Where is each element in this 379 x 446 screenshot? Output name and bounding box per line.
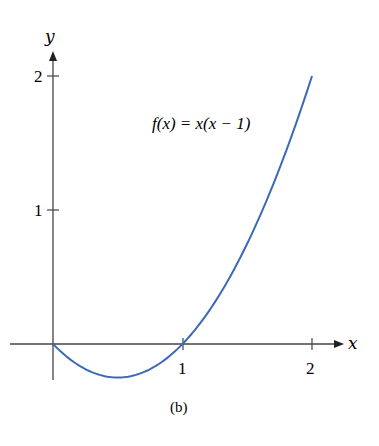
y-axis-label: y xyxy=(44,26,55,46)
x-axis-arrow-icon xyxy=(334,340,344,348)
x-tick-label-2: 2 xyxy=(306,359,315,378)
y-tick-label-1: 1 xyxy=(34,201,43,220)
x-tick-label-1: 1 xyxy=(178,359,187,378)
function-label: f(x) = x(x − 1) xyxy=(152,114,251,133)
y-tick-label-2: 2 xyxy=(34,67,43,86)
chart: x y 1 2 1 2 f(x) = x(x − 1) (b) xyxy=(0,0,379,446)
y-axis-arrow-icon xyxy=(49,51,57,61)
x-axis-label: x xyxy=(348,333,358,353)
figure-caption: (b) xyxy=(170,399,188,416)
